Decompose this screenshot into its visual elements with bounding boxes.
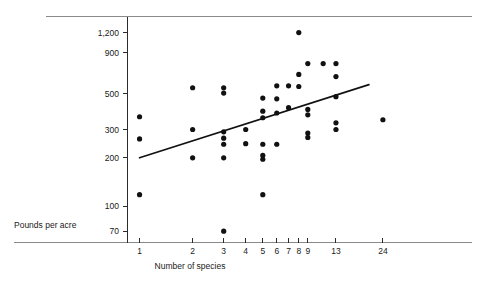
data-point [221,136,226,141]
data-point [305,107,310,112]
data-point [137,192,142,197]
x-tick-label: 2 [190,246,195,256]
x-tick-label: 1 [137,246,142,256]
data-point [260,192,265,197]
data-point [260,109,265,114]
figure-scatter-plot: 701002003005009001,200 1234567891324 Pou… [0,0,486,285]
data-point [333,127,338,132]
data-point [260,96,265,101]
data-point [274,96,279,101]
data-point [260,157,265,162]
x-tick-label: 24 [378,246,388,256]
data-point [137,114,142,119]
y-tick-label: 70 [110,226,120,236]
data-point [321,61,326,66]
data-point [286,83,291,88]
data-point [296,30,301,35]
data-point [333,120,338,125]
x-tick-label: 7 [286,246,291,256]
data-point [333,61,338,66]
y-tick-label: 100 [105,201,119,211]
x-tick-label: 8 [296,246,301,256]
data-point [274,83,279,88]
x-tick-label: 5 [260,246,265,256]
y-tick-label: 1,200 [98,28,120,38]
data-point [190,85,195,90]
data-point [221,85,226,90]
data-point [260,142,265,147]
data-point [221,90,226,95]
x-tick-label: 3 [221,246,226,256]
y-tick-label: 500 [105,89,119,99]
data-points [137,30,386,234]
x-axis-title: Number of species [155,261,226,271]
x-axis-ticks: 1234567891324 [137,238,388,256]
x-tick-label: 4 [243,246,248,256]
data-point [221,155,226,160]
data-point [243,141,248,146]
data-point [190,127,195,132]
data-point [243,127,248,132]
x-tick-label: 6 [274,246,279,256]
data-point [305,61,310,66]
y-axis-ticks: 701002003005009001,200 [98,28,128,237]
x-tick-label: 9 [305,246,310,256]
data-point [190,155,195,160]
data-point [221,229,226,234]
y-tick-label: 900 [105,48,119,58]
data-point [137,136,142,141]
data-point [296,84,301,89]
data-point [333,74,338,79]
data-point [221,142,226,147]
data-point [274,142,279,147]
data-point [305,112,310,117]
y-axis-title: Pounds per acre [14,220,77,230]
data-point [296,72,301,77]
data-point [305,135,310,140]
data-point [380,117,385,122]
plot-canvas: 701002003005009001,200 1234567891324 Pou… [0,0,486,285]
x-tick-label: 13 [331,246,341,256]
y-tick-label: 300 [105,125,119,135]
y-tick-label: 200 [105,153,119,163]
